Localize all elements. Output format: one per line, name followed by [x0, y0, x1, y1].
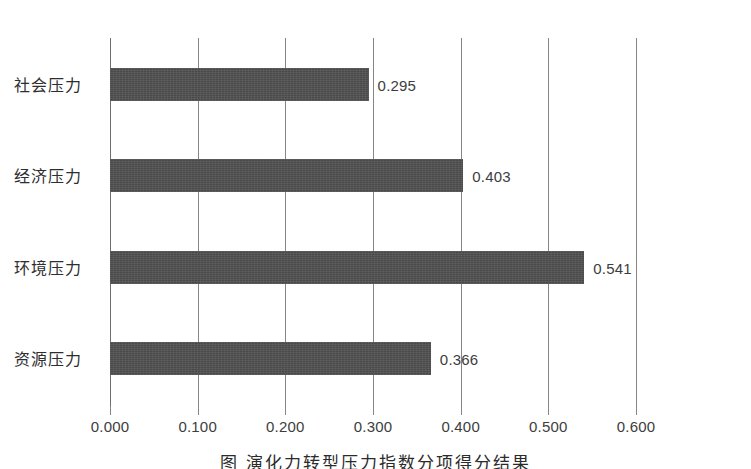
bar-row: 0.403	[110, 159, 636, 192]
plot-area: 0.2950.4030.5410.366	[110, 38, 636, 406]
bar-value-label: 0.403	[472, 167, 511, 184]
x-axis-labels: 0.0000.1000.2000.3000.4000.5000.600	[110, 418, 636, 438]
bar-value-label: 0.366	[440, 350, 479, 367]
bar-row: 0.541	[110, 251, 636, 284]
bar-资源压力[interactable]	[110, 342, 431, 375]
x-tick	[373, 406, 374, 415]
x-tick	[461, 406, 462, 415]
x-tick-label-0.100: 0.100	[178, 418, 217, 435]
x-axis-ticks	[110, 406, 636, 415]
bar-经济压力[interactable]	[110, 159, 463, 192]
category-label-环境压力: 环境压力	[14, 255, 110, 279]
x-tick	[636, 406, 637, 415]
figure-caption: 图 演化力转型压力指数分项得分结果	[0, 449, 751, 469]
x-tick	[198, 406, 199, 415]
x-tick-label-0.200: 0.200	[266, 418, 305, 435]
bar-value-label: 0.295	[378, 76, 417, 93]
x-tick-label-0.300: 0.300	[354, 418, 393, 435]
x-tick-label-0.000: 0.000	[91, 418, 130, 435]
category-axis: 社会压力经济压力环境压力资源压力	[14, 38, 110, 406]
x-tick-label-0.600: 0.600	[617, 418, 656, 435]
category-label-经济压力: 经济压力	[14, 163, 110, 187]
x-tick	[110, 406, 111, 415]
chart-figure: 0.2950.4030.5410.366 社会压力经济压力环境压力资源压力 0.…	[0, 0, 751, 469]
bar-row: 0.366	[110, 342, 636, 375]
x-tick	[548, 406, 549, 415]
x-tick	[285, 406, 286, 415]
x-tick-label-0.500: 0.500	[529, 418, 568, 435]
x-tick-label-0.400: 0.400	[441, 418, 480, 435]
gridline-0.600	[636, 38, 637, 406]
bar-环境压力[interactable]	[110, 251, 584, 284]
bar-社会压力[interactable]	[110, 68, 369, 101]
category-label-资源压力: 资源压力	[14, 346, 110, 370]
bar-row: 0.295	[110, 68, 636, 101]
bar-value-label: 0.541	[593, 259, 632, 276]
category-label-社会压力: 社会压力	[14, 72, 110, 96]
